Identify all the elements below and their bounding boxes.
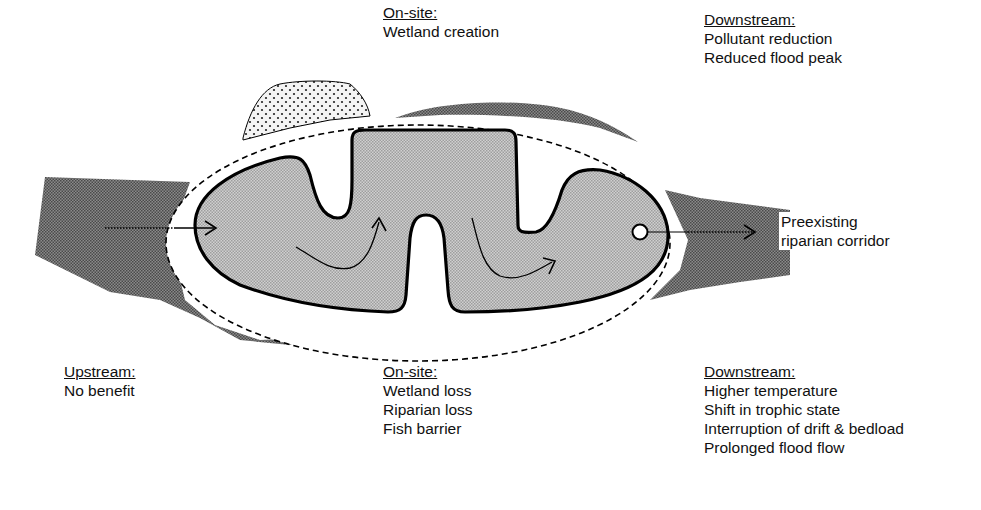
downstream-cost-item: Prolonged flood flow (704, 438, 904, 457)
onsite-benefits-label: On-site: Wetland creation (383, 3, 499, 41)
upstream-heading: Upstream: (64, 362, 136, 381)
downstream-benefit-item: Pollutant reduction (704, 29, 842, 48)
onsite-heading: On-site: (383, 3, 499, 22)
riparian-corridor-label: Preexisting riparian corridor (779, 212, 892, 250)
downstream-corridor (650, 190, 790, 300)
onsite-cost-item: Riparian loss (383, 400, 473, 419)
upstream-effect-item: No benefit (64, 381, 136, 400)
onsite-cost-item: Fish barrier (383, 419, 473, 438)
downstream-cost-item: Interruption of drift & bedload (704, 419, 904, 438)
onsite-costs-label: On-site: Wetland loss Riparian loss Fish… (383, 362, 473, 438)
downstream-heading: Downstream: (704, 10, 842, 29)
upstream-effects-label: Upstream: No benefit (64, 362, 136, 400)
onsite-heading: On-site: (383, 362, 473, 381)
downstream-costs-label: Downstream: Higher temperature Shift in … (704, 362, 904, 457)
downstream-benefits-label: Downstream: Pollutant reduction Reduced … (704, 10, 842, 67)
onsite-cost-item: Wetland loss (383, 381, 473, 400)
corridor-label-line: riparian corridor (781, 231, 890, 250)
downstream-benefit-item: Reduced flood peak (704, 48, 842, 67)
downstream-cost-item: Higher temperature (704, 381, 904, 400)
downstream-cost-item: Shift in trophic state (704, 400, 904, 419)
outlet-icon (633, 225, 648, 240)
onsite-benefit-item: Wetland creation (383, 22, 499, 41)
corridor-label-line: Preexisting (781, 212, 890, 231)
downstream-heading: Downstream: (704, 362, 904, 381)
